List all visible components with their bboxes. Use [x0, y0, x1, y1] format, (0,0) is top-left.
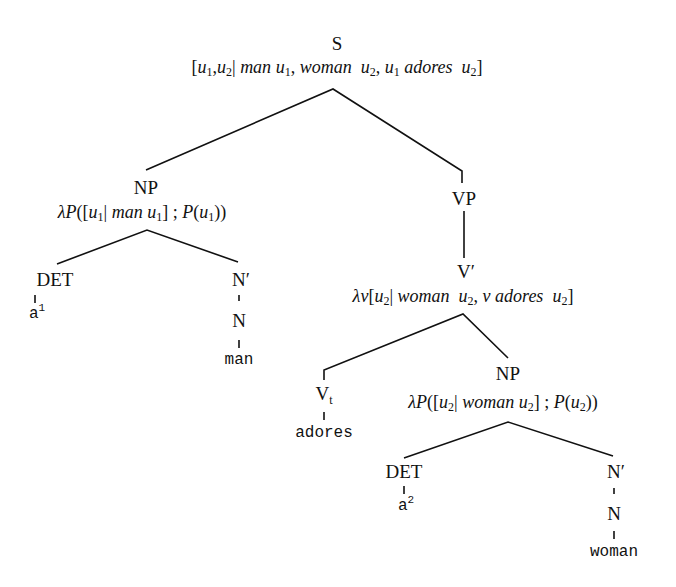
node-vt: Vt: [315, 384, 332, 404]
branch-s: [146, 89, 462, 183]
node-vbar: V′: [457, 262, 475, 282]
tree-branches: [0, 0, 676, 587]
word-woman: woman: [590, 543, 638, 561]
word-a2: a2: [398, 497, 414, 515]
word-man: man: [225, 351, 254, 369]
node-nbar1: N′: [232, 270, 250, 290]
node-np1: NP: [134, 178, 158, 198]
node-n1: N: [232, 311, 246, 331]
node-nbar2: N′: [607, 462, 625, 482]
branch-vbar: [324, 314, 508, 380]
node-det2: DET: [386, 462, 423, 482]
node-s: S: [332, 34, 343, 54]
branch-np2: [404, 422, 613, 458]
formula-np1: λP([u1| man u1] ; P(u1)): [58, 202, 226, 222]
formula-vbar: λv[u2| woman u2, v adores u2]: [353, 286, 574, 306]
branch-np1: [57, 230, 238, 264]
syntax-tree-diagram: S [u1,u2| man u1, woman u2, u1 adores u2…: [0, 0, 676, 587]
formula-s: [u1,u2| man u1, woman u2, u1 adores u2]: [192, 57, 483, 77]
node-n2: N: [607, 504, 621, 524]
node-vp: VP: [452, 189, 476, 209]
node-np2: NP: [496, 364, 520, 384]
word-a1: a1: [29, 305, 45, 323]
formula-np2: λP([u2| woman u2] ; P(u2)): [408, 392, 597, 412]
node-det1: DET: [37, 270, 74, 290]
word-adores: adores: [295, 424, 353, 442]
